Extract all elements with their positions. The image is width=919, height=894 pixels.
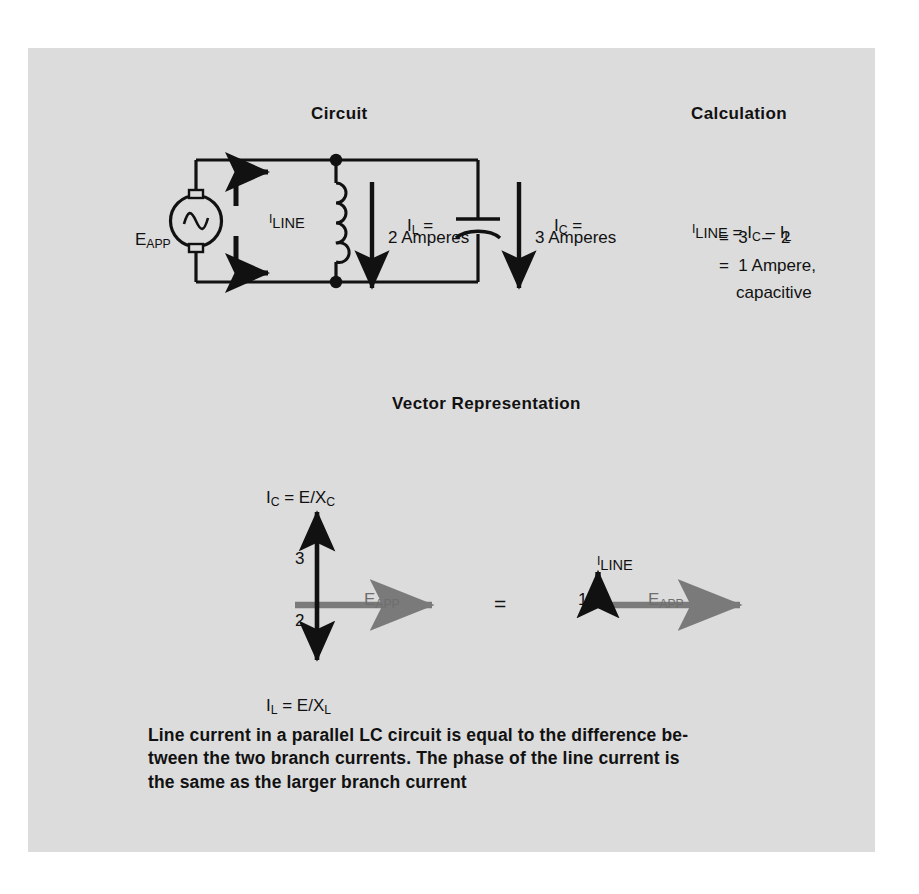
vector-ic-label: IC = E/XC	[247, 468, 335, 529]
eapp-left-main: E	[364, 590, 375, 609]
vector-right-magnitude: 1	[578, 590, 587, 610]
vector-down-magnitude: 2	[295, 611, 304, 631]
calculation-line-3: = 1 Ampere,	[719, 256, 816, 276]
eapp-right-sub: APP	[659, 597, 683, 611]
eapp-left-sub: APP	[375, 597, 399, 611]
eapp-label-left: EAPP	[345, 570, 400, 631]
capacitor-current-value: 3 Amperes	[535, 228, 616, 248]
eapp-right-main: E	[648, 590, 659, 609]
calculation-line-4: capacitive	[736, 283, 812, 303]
source-label-sub: APP	[146, 237, 170, 251]
vector-iline-label: ILINE	[578, 534, 633, 595]
caption-line-2: tween the two branch currents. The phase…	[148, 747, 788, 770]
vector-up-magnitude: 3	[295, 549, 304, 569]
line-current-label: ILINE	[250, 192, 305, 253]
caption-line-3: the same as the larger branch current	[148, 771, 788, 794]
source-label: EAPP	[116, 210, 171, 271]
heading-vector-representation: Vector Representation	[392, 394, 581, 414]
vector-iline-sub: LINE	[600, 557, 632, 573]
vector-ic-rest: = E/X	[279, 488, 326, 507]
eapp-label-right: EAPP	[629, 570, 684, 631]
inductor-current-value: 2 Amperes	[388, 228, 469, 248]
vector-ic-sub2: C	[326, 495, 335, 509]
heading-calculation: Calculation	[691, 104, 787, 124]
vector-il-sub2: L	[324, 703, 331, 717]
heading-circuit: Circuit	[311, 104, 368, 124]
figure-page: Circuit Calculation Vector Representatio…	[0, 0, 919, 894]
calculation-line-2: = 3 – 2	[719, 228, 790, 248]
source-label-main: E	[135, 230, 146, 249]
line-current-label-sub: LINE	[272, 215, 304, 231]
vector-il-rest: = E/X	[277, 696, 324, 715]
vector-equals-sign: =	[494, 592, 506, 617]
figure-caption: Line current in a parallel LC circuit is…	[148, 724, 788, 794]
caption-line-1: Line current in a parallel LC circuit is…	[148, 724, 788, 747]
